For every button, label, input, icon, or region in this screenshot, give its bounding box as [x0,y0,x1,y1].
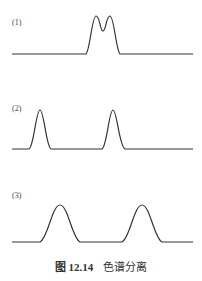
panel-2-label: (2) [12,104,21,113]
panel-2-trace [12,110,193,149]
panel-1-label: (1) [12,18,21,27]
panel-3-trace [12,205,193,242]
panel-1-trace [12,16,193,54]
chromatogram-figure [0,0,202,281]
caption-text: 色谱分离 [103,261,147,274]
figure-caption: 图 12.14色谱分离 [0,258,202,274]
caption-number: 图 12.14 [55,261,94,273]
panel-3-label: (3) [12,191,21,200]
